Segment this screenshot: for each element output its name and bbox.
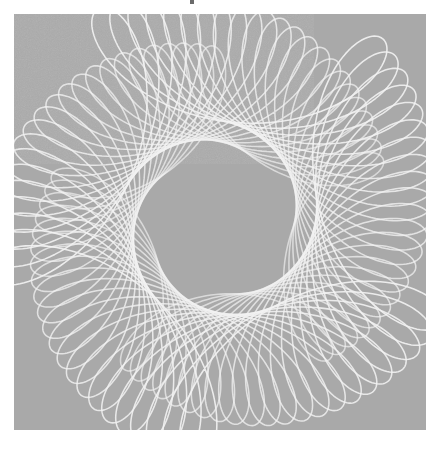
- scan-speck-mark: [190, 0, 194, 4]
- harmonograph-figure: [14, 14, 426, 430]
- page-root: [0, 0, 440, 449]
- plot-canvas: [14, 14, 426, 430]
- curve-family: [14, 14, 426, 430]
